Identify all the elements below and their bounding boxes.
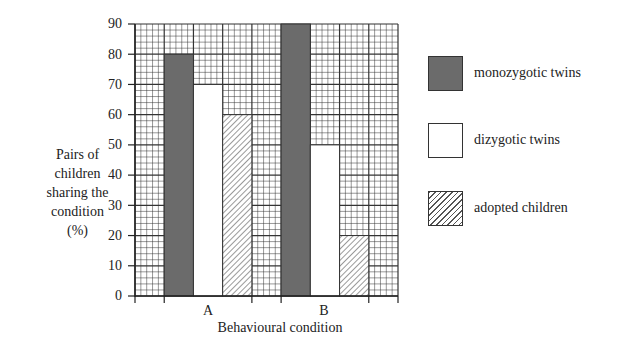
bar-A-2 <box>223 115 252 296</box>
y-tick-label: 60 <box>92 108 122 122</box>
bar-B-1 <box>310 145 339 296</box>
bar-B-2 <box>340 236 369 296</box>
y-tick-label: 0 <box>92 289 122 303</box>
legend-label: dizygotic twins <box>474 132 560 148</box>
y-axis-label: Pairs of children sharing the condition … <box>20 145 135 240</box>
y-tick-label: 20 <box>92 229 122 243</box>
legend-swatch-white <box>428 123 463 158</box>
y-tick-label: 90 <box>92 17 122 31</box>
legend-swatch-hatched <box>428 191 463 226</box>
legend-item-dizygotic: dizygotic twins <box>428 123 613 159</box>
y-tick-label: 30 <box>92 199 122 213</box>
legend-item-monozygotic: monozygotic twins <box>428 56 613 92</box>
x-category-label-a: A <box>193 303 223 319</box>
legend-label: monozygotic twins <box>474 65 581 81</box>
legend-swatch-solid-dark <box>428 56 463 91</box>
x-category-label-b: B <box>309 303 339 319</box>
y-tick-label: 70 <box>92 78 122 92</box>
x-axis-label: Behavioural condition <box>150 320 410 336</box>
legend-label: adopted children <box>474 200 568 216</box>
bar-A-1 <box>193 84 222 296</box>
bar-B-0 <box>281 24 310 296</box>
y-tick-label: 10 <box>92 259 122 273</box>
bar-A-0 <box>164 54 193 296</box>
y-tick-label: 40 <box>92 168 122 182</box>
y-tick-label: 80 <box>92 48 122 62</box>
y-tick-label: 50 <box>92 138 122 152</box>
legend-item-adopted: adopted children <box>428 191 613 227</box>
